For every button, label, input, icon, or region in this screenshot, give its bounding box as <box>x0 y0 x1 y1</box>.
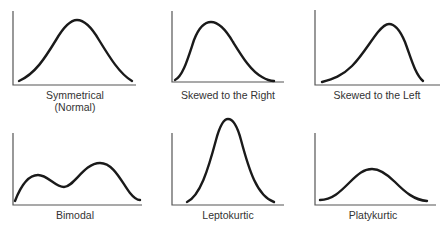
label-skewed-right: Skewed to the Right <box>181 89 275 101</box>
panel-bimodal <box>13 133 142 205</box>
platykurtic-curve <box>320 169 427 201</box>
panel-platykurtic <box>315 133 436 205</box>
panel-skewed-left <box>315 10 440 85</box>
axes <box>13 133 142 205</box>
right-skewed-curve <box>175 22 274 81</box>
panel-leptokurtic <box>172 119 284 205</box>
label-line-1: Symmetrical <box>46 89 104 101</box>
panel-skewed-right <box>172 11 284 82</box>
label-leptokurtic: Leptokurtic <box>202 209 253 221</box>
label-skewed-left: Skewed to the Left <box>334 89 421 101</box>
panel-symmetrical <box>13 11 136 85</box>
label-line-2: (Normal) <box>46 101 104 113</box>
distribution-shapes-diagram <box>0 0 445 232</box>
left-skewed-curve <box>322 24 423 82</box>
axes <box>172 11 284 82</box>
axes <box>315 10 440 85</box>
normal-curve <box>19 20 132 81</box>
bimodal-curve <box>15 163 140 201</box>
axes <box>172 133 284 205</box>
label-bimodal: Bimodal <box>56 209 94 221</box>
label-symmetrical: Symmetrical (Normal) <box>46 89 104 113</box>
leptokurtic-curve <box>187 119 274 202</box>
label-platykurtic: Platykurtic <box>349 209 397 221</box>
